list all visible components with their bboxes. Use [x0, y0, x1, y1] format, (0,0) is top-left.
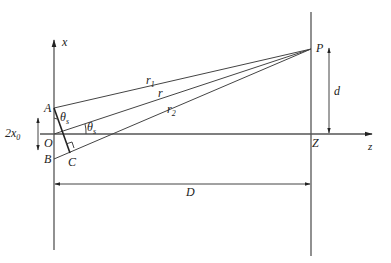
ray-r2 [54, 49, 311, 159]
theta-s-at-O: θs [87, 120, 96, 136]
point-B-label: B [44, 152, 52, 166]
theta-s-at-A: θs [60, 110, 69, 126]
slit-separation-label: 2x0 [5, 126, 20, 142]
distance-D-label: D [185, 185, 195, 199]
point-P-label: P [315, 41, 324, 55]
ray-r1 [54, 49, 311, 108]
ray-r2-label: r2 [167, 102, 176, 118]
ray-r-label: r [158, 86, 163, 100]
point-Z-label: Z [312, 136, 319, 150]
z-axis-label: z [367, 140, 373, 152]
point-A-label: A [43, 101, 52, 115]
point-O-label: O [44, 136, 53, 150]
ray-r1-label: r1 [146, 73, 155, 89]
point-C-label: C [68, 155, 77, 169]
height-d-label: d [334, 84, 341, 98]
double-slit-geometry-diagram: x z A O B C P Z θs θs r1 r r2 2x0 d D [0, 0, 391, 263]
x-axis-label: x [61, 35, 68, 49]
angle-arc-O [85, 124, 86, 134]
